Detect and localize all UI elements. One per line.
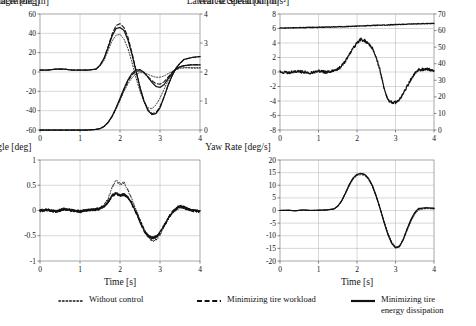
svg-text:-1: -1 (30, 257, 36, 266)
svg-text:3: 3 (158, 265, 162, 274)
svg-text:-20: -20 (26, 87, 36, 96)
svg-text:50: 50 (438, 43, 446, 52)
svg-text:2: 2 (118, 265, 122, 274)
legend-item-1: Minimizing tire workload (196, 294, 316, 305)
svg-text:15: 15 (269, 168, 277, 177)
svg-text:0: 0 (38, 265, 42, 274)
svg-text:0: 0 (204, 126, 208, 135)
svg-text:4: 4 (204, 10, 208, 19)
svg-text:60: 60 (29, 10, 37, 19)
svg-text:0: 0 (438, 126, 442, 135)
legend-swatch-dashed (196, 298, 222, 304)
svg-text:1: 1 (317, 134, 321, 143)
legend-label-2: Minimizing tire energy dissipation (381, 294, 444, 315)
svg-text:3: 3 (158, 134, 162, 143)
legend-swatch-solid (350, 298, 376, 304)
svg-text:1: 1 (317, 265, 321, 274)
x-axis-label: Time [s] (104, 277, 136, 287)
svg-text:1: 1 (78, 265, 82, 274)
svg-text:10: 10 (438, 109, 446, 118)
svg-text:1: 1 (204, 97, 208, 106)
svg-text:5: 5 (272, 193, 276, 202)
x-axis-label: Time [s] (341, 277, 373, 287)
y-axis-label: Slip Angle [deg] (0, 142, 31, 152)
y2-axis-label: Lateral Displacement [m] (0, 0, 49, 6)
svg-text:-4: -4 (270, 97, 276, 106)
svg-text:60: 60 (438, 26, 446, 35)
svg-text:0: 0 (32, 68, 36, 77)
svg-text:-0.5: -0.5 (24, 231, 36, 240)
legend-label-0: Without control (89, 294, 143, 305)
svg-text:3: 3 (204, 39, 208, 48)
svg-text:2: 2 (118, 134, 122, 143)
svg-text:30: 30 (438, 76, 446, 85)
panel-bottom-left: -1-0.500.5101234Slip Angle [deg]Time [s] (0, 150, 240, 295)
svg-text:0: 0 (32, 206, 36, 215)
svg-text:-60: -60 (26, 126, 36, 135)
svg-text:-40: -40 (26, 106, 36, 115)
svg-text:-2: -2 (270, 82, 276, 91)
legend-label-1: Minimizing tire workload (227, 294, 316, 305)
svg-text:2: 2 (272, 53, 276, 62)
svg-text:2: 2 (204, 68, 208, 77)
svg-text:3: 3 (394, 265, 398, 274)
legend-item-0: Without control (58, 294, 143, 305)
figure-canvas: -60-40-2002040600123401234Steering Angle… (0, 0, 476, 326)
svg-text:0: 0 (278, 134, 282, 143)
svg-text:1: 1 (78, 134, 82, 143)
svg-text:-8: -8 (270, 126, 276, 135)
svg-text:-5: -5 (270, 219, 276, 228)
svg-text:4: 4 (432, 265, 436, 274)
svg-text:20: 20 (269, 156, 277, 165)
svg-text:0: 0 (272, 68, 276, 77)
svg-text:8: 8 (272, 10, 276, 19)
svg-text:4: 4 (198, 134, 202, 143)
figure-legend: Without control Minimizing tire workload… (0, 292, 476, 326)
svg-text:0: 0 (278, 265, 282, 274)
svg-text:0: 0 (272, 206, 276, 215)
panel-top-left: -60-40-2002040600123401234Steering Angle… (0, 4, 240, 152)
panel-bottom-right: -20-15-10-50510152001234Yaw Rate [deg/s]… (238, 150, 476, 295)
svg-text:1: 1 (32, 156, 36, 165)
svg-text:-20: -20 (266, 257, 276, 266)
svg-text:-10: -10 (266, 231, 276, 240)
svg-text:0: 0 (38, 134, 42, 143)
svg-text:4: 4 (198, 265, 202, 274)
svg-text:4: 4 (432, 134, 436, 143)
svg-text:-6: -6 (270, 111, 276, 120)
svg-text:6: 6 (272, 24, 276, 33)
svg-text:20: 20 (29, 48, 37, 57)
svg-text:-15: -15 (266, 244, 276, 253)
svg-text:2: 2 (355, 134, 359, 143)
svg-text:40: 40 (29, 29, 37, 38)
svg-text:70: 70 (438, 10, 446, 19)
svg-text:4: 4 (272, 39, 276, 48)
legend-item-2: Minimizing tire energy dissipation (350, 294, 444, 315)
y-axis-label: Yaw Rate [deg/s] (205, 142, 271, 152)
svg-text:0.5: 0.5 (27, 181, 37, 190)
legend-swatch-dotted (58, 298, 84, 304)
svg-text:3: 3 (394, 134, 398, 143)
svg-text:2: 2 (355, 265, 359, 274)
svg-text:20: 20 (438, 92, 446, 101)
panel-top-right: -8-6-4-20246801020304050607001234Lateral… (238, 4, 476, 152)
svg-text:10: 10 (269, 181, 277, 190)
y2-axis-label: Vehicle Speed [km/h] (197, 0, 279, 6)
svg-text:40: 40 (438, 59, 446, 68)
